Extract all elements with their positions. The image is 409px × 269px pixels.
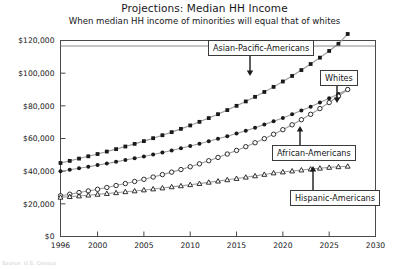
plot-area: $0$20,000$40,000$60,000$80,000$100,000$1…	[0, 0, 409, 269]
svg-text:$100,000: $100,000	[18, 69, 54, 78]
svg-text:2000: 2000	[88, 241, 107, 250]
svg-text:$120,000: $120,000	[18, 36, 54, 45]
callout-african-label: African-Americans	[277, 148, 351, 158]
callout-whites: Whites	[320, 70, 358, 86]
svg-text:2015: 2015	[227, 241, 246, 250]
callout-whites-label: Whites	[325, 73, 353, 83]
svg-text:$40,000: $40,000	[23, 167, 55, 176]
callout-asian-pacific-americans: Asian-Pacific-Americans	[208, 40, 314, 56]
svg-text:2005: 2005	[134, 241, 153, 250]
source-caption: Source: U.S. Census	[2, 260, 56, 266]
chart-container: Projections: Median HH Income When media…	[0, 0, 409, 269]
svg-text:$80,000: $80,000	[23, 102, 55, 111]
svg-text:2020: 2020	[273, 241, 292, 250]
callout-asian-label: Asian-Pacific-Americans	[213, 43, 309, 53]
svg-text:2030: 2030	[366, 241, 385, 250]
svg-text:$60,000: $60,000	[23, 134, 55, 143]
svg-text:$20,000: $20,000	[23, 200, 55, 209]
svg-text:2025: 2025	[320, 241, 339, 250]
callout-hispanic-americans: Hispanic-Americans	[290, 190, 380, 206]
svg-text:1996: 1996	[51, 241, 70, 250]
callout-hispanic-label: Hispanic-Americans	[295, 193, 375, 203]
svg-text:2010: 2010	[181, 241, 200, 250]
callout-african-americans: African-Americans	[272, 145, 356, 161]
